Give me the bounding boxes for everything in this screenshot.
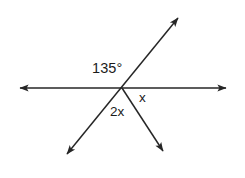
- angle-diagram: 135° x 2x: [0, 0, 245, 178]
- angle-label-2x: 2x: [110, 105, 124, 119]
- diagonal-line: [67, 18, 178, 154]
- angle-label-x: x: [139, 91, 146, 105]
- geometry-canvas: [0, 0, 245, 178]
- angle-label-135: 135°: [92, 61, 122, 76]
